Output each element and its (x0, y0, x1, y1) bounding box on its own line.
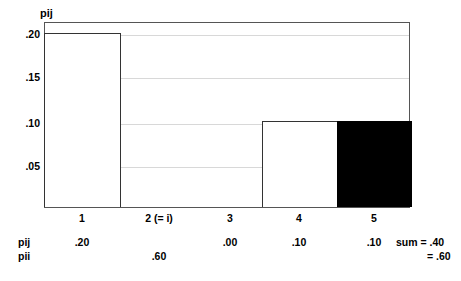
x-tick-label-3: 3 (200, 211, 260, 225)
annotation-row-label-pii: pii (18, 250, 48, 263)
y-axis-title: pij (40, 7, 53, 19)
x-tick-label-4: 4 (269, 211, 329, 225)
annotation-pij-cat3: .00 (200, 236, 260, 249)
annotation-sum-pij: sum = .40 (396, 236, 444, 249)
annotation-row-pij: pij .20 .00 .10 .10 sum = .40 (0, 236, 461, 251)
y-axis-tick-labels: .20 .15 .10 .05 (10, 22, 40, 208)
bar-category-1[interactable] (44, 33, 121, 207)
annotation-row-pii: pii .60 = .60 (0, 250, 461, 265)
annotation-pij-cat1: .20 (52, 236, 112, 249)
y-tick-label-10: .10 (14, 118, 40, 128)
bar-category-4[interactable] (262, 121, 338, 207)
annotation-sum-pii: = .60 (427, 250, 451, 263)
y-tick-label-20: .20 (14, 29, 40, 39)
annotation-pij-cat5: .10 (344, 236, 404, 249)
annotation-pii-cat2: .60 (122, 250, 196, 263)
bar-category-5[interactable] (337, 121, 412, 207)
annotation-pij-cat4: .10 (269, 236, 329, 249)
annotation-row-label-pij: pij (18, 236, 48, 249)
annotation-table: pij .20 .00 .10 .10 sum = .40 pii .60 = … (0, 236, 461, 270)
x-tick-label-2: 2 (= i) (122, 211, 196, 225)
plot-area (44, 22, 410, 208)
y-tick-label-05: .05 (14, 161, 40, 171)
x-tick-label-1: 1 (52, 211, 112, 225)
x-tick-label-5: 5 (344, 211, 404, 225)
y-tick-label-15: .15 (14, 72, 40, 82)
x-axis-tick-labels: 1 2 (= i) 3 4 5 (44, 211, 410, 227)
